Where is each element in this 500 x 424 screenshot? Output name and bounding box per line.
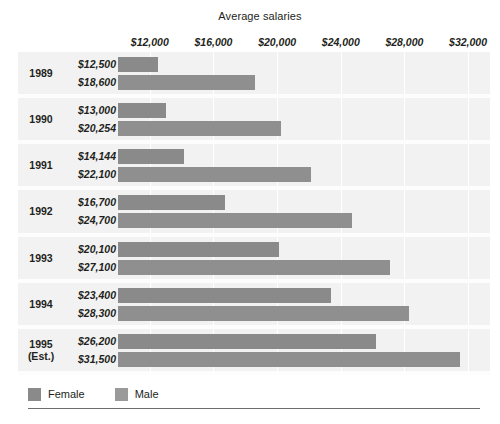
bar-female [118, 103, 166, 118]
bar-female [118, 288, 331, 303]
bar-row-female: $23,400 [18, 287, 490, 303]
bar-male [118, 213, 352, 228]
bar-value-label: $22,100 [64, 166, 116, 182]
bar-value-label: $24,700 [64, 212, 116, 228]
chart-group-1994: 1994$23,400$28,300 [18, 283, 490, 329]
bar-value-label: $28,300 [64, 305, 116, 321]
bar-value-label: $18,600 [64, 74, 116, 90]
bar-row-male: $18,600 [18, 74, 490, 90]
bar-row-male: $24,700 [18, 212, 490, 228]
chart-group-1989: 1989$12,500$18,600 [18, 52, 490, 98]
bar-value-label: $16,700 [64, 194, 116, 210]
bar-female [118, 242, 279, 257]
bar-value-label: $13,000 [64, 102, 116, 118]
bar-value-label: $20,100 [64, 241, 116, 257]
bar-row-female: $14,144 [18, 148, 490, 164]
x-tick-label: $24,000 [322, 36, 360, 48]
bar-row-male: $22,100 [18, 166, 490, 182]
bar-female [118, 149, 184, 164]
bar-row-male: $28,300 [18, 305, 490, 321]
bar-row-female: $12,500 [18, 56, 490, 72]
x-tick-label: $20,000 [258, 36, 296, 48]
bar-male [118, 75, 255, 90]
bar-value-label: $14,144 [64, 148, 116, 164]
bar-value-label: $20,254 [64, 120, 116, 136]
bar-male [118, 121, 281, 136]
bar-row-female: $20,100 [18, 241, 490, 257]
bar-female [118, 195, 225, 210]
bar-male [118, 167, 311, 182]
bar-value-label: $23,400 [64, 287, 116, 303]
plot-area: 1989$12,500$18,6001990$13,000$20,2541991… [18, 52, 490, 375]
legend-label: Female [48, 388, 85, 400]
bottom-divider [28, 408, 480, 409]
chart-group-1992: 1992$16,700$24,700 [18, 190, 490, 236]
legend-label: Male [135, 388, 159, 400]
bar-value-label: $12,500 [64, 56, 116, 72]
bar-row-female: $13,000 [18, 102, 490, 118]
bar-male [118, 352, 460, 367]
x-tick-label: $32,000 [449, 36, 487, 48]
x-tick-label: $16,000 [194, 36, 232, 48]
bar-row-female: $26,200 [18, 333, 490, 349]
legend-swatch-male [115, 388, 128, 401]
bar-value-label: $27,100 [64, 259, 116, 275]
legend-swatch-female [28, 388, 41, 401]
x-tick-label: $12,000 [131, 36, 169, 48]
bar-female [118, 334, 376, 349]
chart-group-1993: 1993$20,100$27,100 [18, 237, 490, 283]
salary-bar-chart-figure: Average salaries $12,000$16,000$20,000$2… [0, 0, 500, 424]
chart-legend: FemaleMale [28, 386, 189, 402]
bar-value-label: $31,500 [64, 351, 116, 367]
bar-row-male: $20,254 [18, 120, 490, 136]
legend-item-female: Female [28, 388, 85, 401]
chart-group-1991: 1991$14,144$22,100 [18, 144, 490, 190]
bar-row-female: $16,700 [18, 194, 490, 210]
bar-male [118, 260, 390, 275]
chart-group-1995: 1995(Est.)$26,200$31,500 [18, 329, 490, 375]
bar-male [118, 306, 409, 321]
x-tick-label: $28,000 [385, 36, 423, 48]
chart-title: Average salaries [40, 10, 480, 22]
bar-row-male: $31,500 [18, 351, 490, 367]
legend-item-male: Male [115, 388, 159, 401]
bar-row-male: $27,100 [18, 259, 490, 275]
chart-group-1990: 1990$13,000$20,254 [18, 98, 490, 144]
bar-female [118, 57, 158, 72]
x-axis-tick-labels: $12,000$16,000$20,000$24,000$28,000$32,0… [0, 36, 500, 52]
bar-value-label: $26,200 [64, 333, 116, 349]
